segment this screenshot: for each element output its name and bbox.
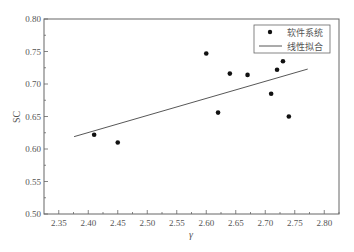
scatter-chart: 2.352.402.452.502.552.602.652.702.752.80… (0, 0, 354, 252)
data-point (115, 140, 120, 145)
data-point (228, 71, 233, 76)
x-tick-label: 2.55 (169, 218, 185, 228)
y-axis-ticks: 0.500.550.600.650.700.750.80 (25, 14, 48, 219)
y-axis-title: SC (11, 111, 22, 124)
y-tick-label: 0.65 (25, 112, 41, 122)
y-tick-label: 0.75 (25, 47, 41, 57)
x-tick-label: 2.60 (198, 218, 214, 228)
y-tick-label: 0.60 (25, 144, 41, 154)
x-axis-ticks: 2.352.402.452.502.552.602.652.702.752.80 (51, 210, 339, 228)
x-tick-label: 2.35 (51, 218, 67, 228)
legend-label-fit: 线性拟合 (287, 41, 323, 52)
legend-dot-icon (268, 30, 272, 34)
x-tick-label: 2.40 (80, 218, 96, 228)
y-tick-label: 0.50 (25, 209, 41, 219)
y-tick-label: 0.80 (25, 14, 41, 24)
x-tick-label: 2.45 (110, 218, 126, 228)
x-axis-title: γ (189, 229, 194, 240)
data-points (92, 51, 291, 145)
data-point (216, 110, 221, 115)
data-point (281, 59, 286, 64)
data-point (275, 67, 280, 72)
data-point (204, 51, 209, 56)
y-tick-label: 0.70 (25, 79, 41, 89)
x-tick-label: 2.65 (228, 218, 244, 228)
legend-label-scatter: 软件系统 (287, 27, 323, 38)
legend: 软件系统 线性拟合 (254, 25, 330, 53)
x-tick-label: 2.70 (257, 218, 273, 228)
fit-line (74, 69, 308, 137)
data-point (92, 132, 97, 137)
x-tick-label: 2.75 (287, 218, 303, 228)
x-tick-label: 2.50 (139, 218, 155, 228)
linear-fit-line (74, 69, 308, 137)
data-point (287, 114, 292, 119)
data-point (269, 91, 274, 96)
data-point (245, 73, 250, 78)
y-tick-label: 0.55 (25, 177, 41, 187)
x-tick-label: 2.80 (316, 218, 332, 228)
